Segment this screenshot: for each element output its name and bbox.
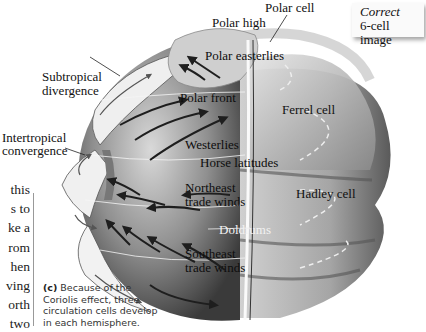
label-polar-high: Polar high <box>212 16 266 30</box>
column-divider <box>33 193 34 326</box>
label-subtropical-divergence-1: Subtropical <box>42 70 102 84</box>
label-northeast-trade-winds-2: trade winds <box>185 195 245 209</box>
label-polar-front: Polar front <box>180 91 236 105</box>
label-northeast-trade-winds-1: Northeast <box>185 181 236 195</box>
body-line: s to <box>0 199 30 218</box>
caption-tag: (c) <box>43 282 57 293</box>
body-line: two <box>0 314 30 332</box>
body-line: orth <box>0 295 30 314</box>
caption-line-2: Coriolis effect, three <box>43 294 158 306</box>
label-subtropical-divergence-2: divergence <box>42 84 99 98</box>
cropped-body-text: this s to ke a rom hen ving orth two <box>0 180 30 332</box>
caption-line-1: Because of the <box>57 282 131 293</box>
label-polar-easterlies: Polar easterlies <box>205 49 284 63</box>
body-line: rom <box>0 238 30 257</box>
note-line-2: 6-cell image <box>360 19 424 47</box>
body-line: this <box>0 180 30 199</box>
figure-caption: (c) Because of the Coriolis effect, thre… <box>43 282 158 328</box>
label-polar-cell: Polar cell <box>265 1 314 15</box>
correction-note: Correct 6-cell image <box>352 3 424 37</box>
body-line: ke a <box>0 218 30 237</box>
label-horse-latitudes: Horse latitudes <box>200 156 278 170</box>
label-southeast-trade-winds-1: Southeast <box>185 247 236 261</box>
body-line: ving <box>0 276 30 295</box>
caption-line-3: circulation cells develop <box>43 305 158 317</box>
note-line-1: Correct <box>360 5 424 19</box>
label-ferrel-cell: Ferrel cell <box>282 103 335 117</box>
label-southeast-trade-winds-2: trade winds <box>185 261 245 275</box>
label-westerlies: Westerlies <box>185 138 239 152</box>
label-doldrums: Doldrums <box>219 223 271 237</box>
label-intertropical-convergence-2: convergence <box>2 144 67 158</box>
body-line: hen <box>0 257 30 276</box>
label-hadley-cell: Hadley cell <box>296 187 356 201</box>
caption-line-4: in each hemisphere. <box>43 317 158 329</box>
